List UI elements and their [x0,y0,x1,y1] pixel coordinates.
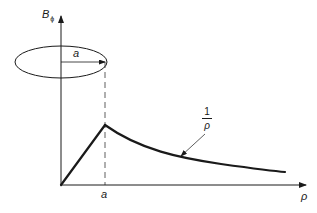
y-axis-label: Bϕ [42,9,54,20]
annotation-denominator: ρ [200,121,214,131]
annotation-fraction-bar [202,118,212,119]
inverse-rho-curve [105,125,285,172]
radius-label: a [73,48,79,59]
x-tick-label-a: a [101,189,107,200]
annotation-pointer [181,134,205,156]
inverse-rho-annotation: 1 ρ [200,106,214,131]
field-diagram [0,0,317,213]
y-axis-label-subscript: ϕ [50,15,54,22]
y-axis-label-main: B [42,8,49,20]
annotation-numerator: 1 [200,106,214,117]
x-axis-label: ρ [301,191,307,202]
linear-segment [61,125,105,185]
